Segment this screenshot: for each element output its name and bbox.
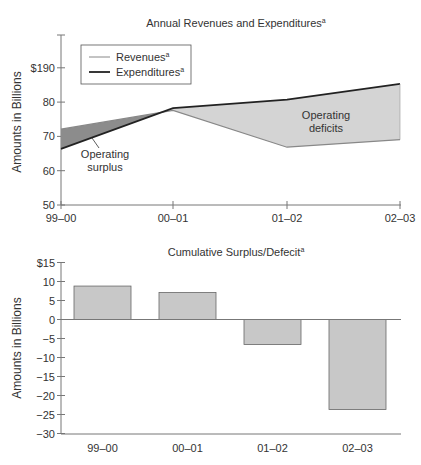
legend-revenues-label: Revenuesa — [116, 51, 170, 63]
top-chart-title: Annual Revenues and Expendituresa — [146, 17, 326, 29]
y-tick-label: −10 — [36, 352, 55, 364]
legend: Revenuesa Expendituresa — [81, 45, 191, 84]
bar-99–00 — [74, 286, 131, 319]
y-tick-label: 80 — [43, 96, 55, 108]
top-chart-y-axis-label: Amounts in Billions — [10, 71, 24, 172]
bottom-chart-y-axis-label: Amounts in Billions — [10, 297, 24, 398]
bottom-chart-bars — [74, 286, 386, 410]
x-tick-label: 99–00 — [46, 212, 77, 224]
operating-deficits-area — [161, 84, 400, 147]
y-tick-label: −15 — [36, 371, 55, 383]
y-tick-label: −5 — [42, 333, 55, 345]
bar-01–02 — [244, 320, 301, 345]
surplus-pointer — [92, 138, 99, 148]
bottom-chart-x-ticks: 99–0000–0101–0202–03 — [87, 442, 373, 454]
figure: Annual Revenues and Expendituresa Amount… — [0, 0, 421, 465]
top-chart-y-ticks: 50607080$190 — [31, 62, 65, 211]
x-tick-label: 01–02 — [272, 212, 303, 224]
x-tick-label: 02–03 — [342, 442, 373, 454]
y-tick-label: −30 — [36, 428, 55, 440]
x-tick-label: 99–00 — [87, 442, 118, 454]
bar-02–03 — [329, 320, 386, 410]
y-tick-label: $15 — [37, 257, 55, 269]
legend-expenditures-label: Expendituresa — [116, 66, 184, 78]
y-tick-label: −20 — [36, 390, 55, 402]
bottom-chart-title: Cumulative Surplus/Defecita — [168, 246, 305, 258]
operating-surplus-annotation: Operatingsurplus — [81, 148, 129, 173]
x-tick-label: 00–01 — [158, 212, 189, 224]
y-tick-label: $190 — [31, 62, 55, 74]
top-chart-x-ticks: 99–0000–0101–0202–03 — [46, 201, 416, 224]
bar-00–01 — [159, 293, 216, 320]
y-tick-label: 70 — [43, 130, 55, 142]
x-tick-label: 00–01 — [172, 442, 203, 454]
y-tick-label: −25 — [36, 409, 55, 421]
y-tick-label: 0 — [49, 314, 55, 326]
y-tick-label: 50 — [43, 199, 55, 211]
y-tick-label: 60 — [43, 165, 55, 177]
x-tick-label: 01–02 — [257, 442, 288, 454]
y-tick-label: 5 — [49, 295, 55, 307]
operating-deficits-annotation: Operatingdeficits — [302, 109, 350, 134]
x-tick-label: 02–03 — [385, 212, 416, 224]
y-tick-label: 10 — [43, 276, 55, 288]
